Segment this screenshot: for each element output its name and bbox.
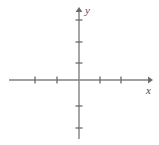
x-axis-arrowhead-icon (148, 77, 153, 84)
x-axis-label: x (145, 84, 151, 96)
y-axis-arrowhead-icon (76, 7, 83, 12)
coordinate-axes-figure: y x (0, 0, 159, 145)
y-axis-label: y (84, 4, 90, 16)
axes-diagram: y x (0, 0, 159, 145)
